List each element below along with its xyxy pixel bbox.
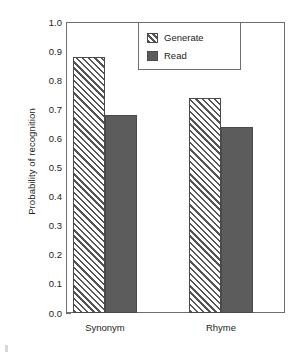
legend-label-read: Read [164, 51, 187, 61]
x-tick-label-rhyme: Rhyme [171, 322, 271, 333]
bar-rhyme-read [221, 127, 253, 313]
legend-swatch-read-icon [147, 51, 158, 61]
bar-rhyme-generate [189, 98, 221, 313]
legend-label-generate: Generate [164, 33, 204, 43]
x-tick-label-synonym: Synonym [55, 322, 155, 333]
bar-chart-figure: Probability of recognition 1.0 0.9 0.8 0… [0, 0, 306, 357]
legend-swatch-generate-icon [147, 33, 158, 43]
bar-synonym-generate [73, 57, 105, 313]
legend-item-read: Read [147, 50, 187, 62]
legend: Generate Read [138, 22, 241, 70]
scan-artifact-mark [5, 345, 8, 352]
bar-synonym-read [105, 115, 137, 313]
legend-item-generate: Generate [147, 32, 204, 44]
